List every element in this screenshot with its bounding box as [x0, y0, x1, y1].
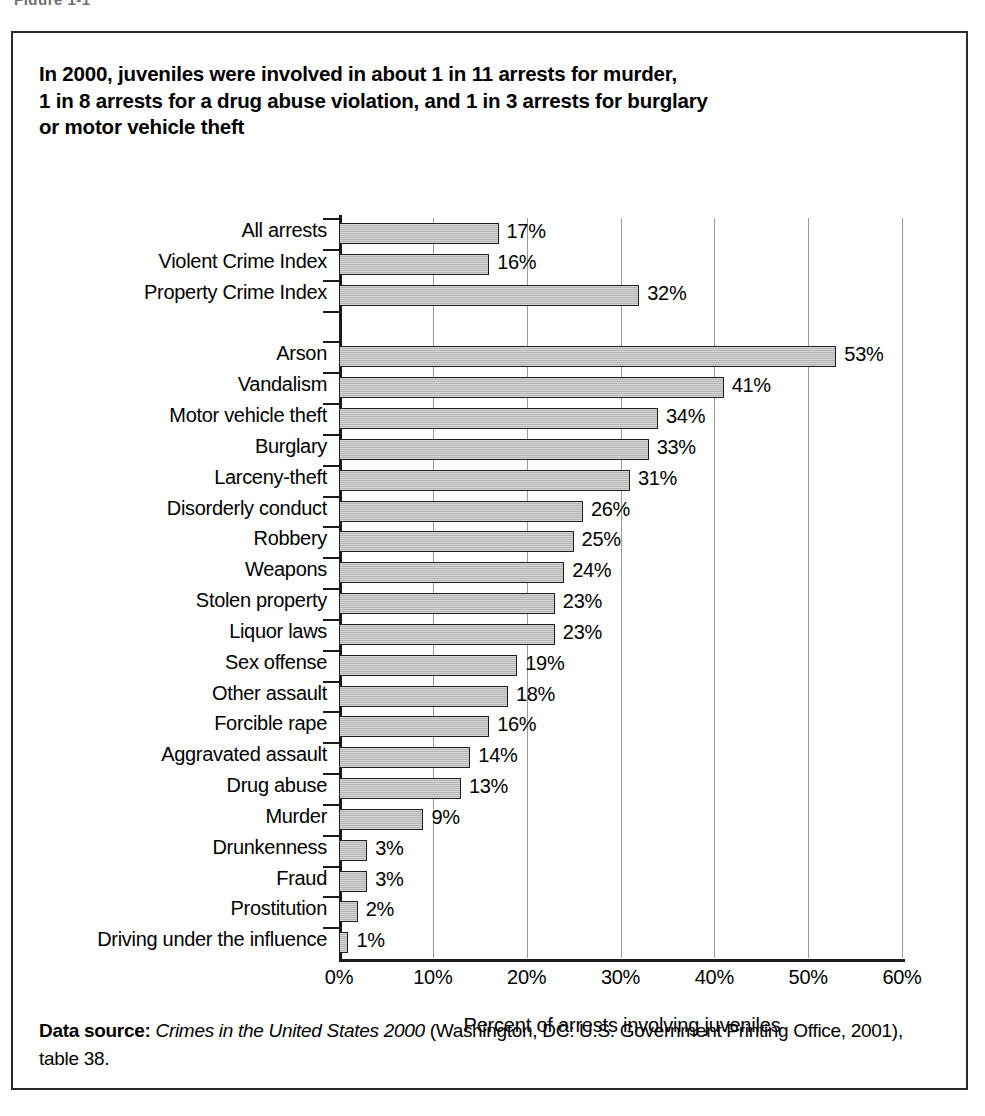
bar	[339, 470, 630, 491]
chart-row: Weapons24%	[339, 557, 902, 589]
category-label: Robbery	[0, 527, 327, 550]
bar	[339, 624, 555, 645]
x-tick-label: 60%	[882, 966, 921, 989]
x-tick-label: 20%	[507, 966, 546, 989]
category-label: Forcible rape	[0, 712, 327, 735]
category-label: Driving under the influence	[0, 928, 327, 951]
category-label: All arrests	[0, 219, 327, 242]
chart-row: Arson53%	[339, 341, 902, 373]
bar	[339, 686, 508, 707]
category-label: Drunkenness	[0, 836, 327, 859]
category-label: Property Crime Index	[0, 281, 327, 304]
category-label: Aggravated assault	[0, 743, 327, 766]
figure-caption: Figure 1-1	[14, 0, 91, 5]
plot-area: All arrests17%Violent Crime Index16%Prop…	[339, 218, 902, 958]
bar-value-label: 3%	[375, 868, 403, 891]
bar	[339, 285, 639, 306]
x-tick-label: 40%	[695, 966, 734, 989]
chart-row: Drunkenness3%	[339, 835, 902, 867]
category-label: Violent Crime Index	[0, 250, 327, 273]
bar	[339, 346, 836, 367]
x-tick-label: 30%	[601, 966, 640, 989]
chart-row: Violent Crime Index16%	[339, 249, 902, 281]
headline-line-3: or motor vehicle theft	[39, 114, 919, 141]
chart-row: Burglary33%	[339, 434, 902, 466]
bar-value-label: 34%	[666, 405, 705, 428]
bar-value-label: 41%	[732, 374, 771, 397]
chart-row: Fraud3%	[339, 866, 902, 898]
chart-row: Robbery25%	[339, 526, 902, 558]
bar-value-label: 25%	[582, 528, 621, 551]
bar-value-label: 19%	[525, 652, 564, 675]
chart-row	[339, 311, 902, 343]
bar-value-label: 17%	[507, 220, 546, 243]
chart-row: Sex offense19%	[339, 650, 902, 682]
chart-row: Motor vehicle theft34%	[339, 403, 902, 435]
category-label: Fraud	[0, 867, 327, 890]
chart-row: Prostitution2%	[339, 896, 902, 928]
chart-row: Drug abuse13%	[339, 773, 902, 805]
bar	[339, 377, 724, 398]
chart-row: All arrests17%	[339, 218, 902, 250]
category-label: Larceny-theft	[0, 466, 327, 489]
chart-row: Murder9%	[339, 804, 902, 836]
category-label: Disorderly conduct	[0, 497, 327, 520]
chart-row: Forcible rape16%	[339, 711, 902, 743]
category-label: Weapons	[0, 558, 327, 581]
bar-value-label: 13%	[469, 775, 508, 798]
category-label: Sex offense	[0, 651, 327, 674]
chart-row: Larceny-theft31%	[339, 465, 902, 497]
bar	[339, 439, 649, 460]
x-tick-label: 0%	[325, 966, 353, 989]
category-label: Burglary	[0, 435, 327, 458]
category-label: Prostitution	[0, 897, 327, 920]
bar-chart: All arrests17%Violent Crime Index16%Prop…	[13, 173, 966, 993]
bar	[339, 901, 358, 922]
chart-row: Stolen property23%	[339, 588, 902, 620]
bar-value-label: 18%	[516, 683, 555, 706]
bar	[339, 223, 499, 244]
chart-row: Aggravated assault14%	[339, 742, 902, 774]
data-source-title: Crimes in the United States 2000	[155, 1020, 424, 1041]
chart-row: Property Crime Index32%	[339, 280, 902, 312]
bar-value-label: 1%	[356, 929, 384, 952]
category-label: Stolen property	[0, 589, 327, 612]
bar-value-label: 24%	[572, 559, 611, 582]
bar	[339, 408, 658, 429]
category-label: Drug abuse	[0, 774, 327, 797]
headline-line-2: 1 in 8 arrests for a drug abuse violatio…	[39, 88, 919, 115]
bar-value-label: 16%	[497, 713, 536, 736]
bar-value-label: 9%	[431, 806, 459, 829]
chart-row: Disorderly conduct26%	[339, 496, 902, 528]
chart-row: Vandalism41%	[339, 372, 902, 404]
data-source-label: Data source:	[39, 1020, 151, 1041]
bar-value-label: 32%	[647, 282, 686, 305]
bar	[339, 254, 489, 275]
x-tick-label: 10%	[413, 966, 452, 989]
figure-frame: In 2000, juveniles were involved in abou…	[11, 31, 968, 1090]
x-tick-label: 50%	[789, 966, 828, 989]
category-label: Arson	[0, 342, 327, 365]
bar	[339, 562, 564, 583]
category-label: Vandalism	[0, 373, 327, 396]
chart-headline: In 2000, juveniles were involved in abou…	[39, 61, 919, 141]
bar-value-label: 53%	[844, 343, 883, 366]
x-axis-line	[339, 959, 905, 962]
bar-value-label: 2%	[366, 898, 394, 921]
data-source-note: Data source: Crimes in the United States…	[39, 1017, 929, 1073]
category-label: Liquor laws	[0, 620, 327, 643]
y-axis-tick	[323, 311, 340, 313]
bar	[339, 932, 348, 953]
chart-row: Other assault18%	[339, 681, 902, 713]
bar	[339, 716, 489, 737]
chart-row: Driving under the influence1%	[339, 927, 902, 959]
bar	[339, 531, 574, 552]
chart-row: Liquor laws23%	[339, 619, 902, 651]
bar-value-label: 26%	[591, 498, 630, 521]
bar-value-label: 23%	[563, 621, 602, 644]
bar-value-label: 16%	[497, 251, 536, 274]
bar	[339, 809, 423, 830]
bar	[339, 501, 583, 522]
headline-line-1: In 2000, juveniles were involved in abou…	[39, 61, 919, 88]
category-label: Other assault	[0, 682, 327, 705]
